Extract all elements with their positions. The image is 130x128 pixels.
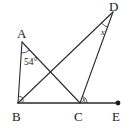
vertex-label-b: B — [12, 109, 21, 124]
angle-label-a: 54° — [24, 57, 38, 67]
angle-label-c: x — [81, 95, 86, 104]
vertex-label-d: D — [109, 0, 118, 14]
point-marker-e — [116, 101, 121, 106]
angle-arc-d — [101, 23, 107, 27]
vertex-label-c: C — [74, 109, 83, 124]
angle-label-b: o — [21, 97, 24, 103]
segment-ab — [18, 42, 22, 103]
angle-arc-a — [21, 50, 29, 53]
segment-cd — [80, 12, 113, 103]
geometry-figure: A B C D E 54° o x x — [0, 0, 130, 128]
vertex-label-e: E — [112, 109, 120, 124]
geometry-canvas: A B C D E 54° o x x — [0, 0, 130, 128]
vertex-label-a: A — [17, 26, 27, 41]
angle-label-d: x — [100, 28, 105, 37]
segment-ac — [22, 42, 80, 103]
